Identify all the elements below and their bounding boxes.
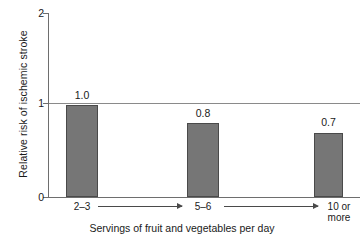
arrow-5-6-to-10-or-more — [224, 202, 318, 210]
bar-5-6 — [187, 123, 219, 197]
x-axis-title: Servings of fruit and vegetables per day — [0, 222, 364, 234]
arrow-head-icon — [177, 203, 183, 209]
bar-label-10-or-more: 0.7 — [321, 116, 336, 128]
plot-area: 0 1 2 1.0 0.8 0.7 2–3 5–6 10 or more — [48, 13, 360, 197]
x-category-label-5-6-line1: 5–6 — [195, 201, 212, 212]
y-axis-line — [48, 13, 49, 197]
chart-figure: Relative risk of ischemic stroke 0 1 2 1… — [0, 0, 364, 242]
x-category-label-2-3-line1: 2–3 — [74, 201, 91, 212]
x-category-label-5-6: 5–6 — [195, 201, 212, 212]
x-category-label-2-3: 2–3 — [74, 201, 91, 212]
y-tick-label-0: 0 — [38, 191, 44, 203]
arrow-shaft-icon — [98, 206, 182, 207]
y-tick-label-1: 1 — [38, 97, 44, 109]
arrow-2-3-to-5-6 — [98, 202, 182, 210]
bar-label-5-6: 0.8 — [196, 107, 211, 119]
x-category-label-10-or-more: 10 or more — [328, 201, 351, 223]
x-category-label-10-or-more-line1: 10 or — [328, 201, 351, 212]
bar-2-3 — [66, 105, 98, 197]
y-tick-label-2: 2 — [38, 7, 44, 19]
x-axis-line — [48, 197, 360, 198]
bar-label-2-3: 1.0 — [75, 89, 90, 101]
arrow-shaft-icon — [224, 206, 318, 207]
reference-line-at-1 — [48, 103, 360, 104]
y-axis-title: Relative risk of ischemic stroke — [17, 4, 29, 204]
arrow-head-icon — [313, 203, 319, 209]
bar-10-or-more — [314, 133, 343, 197]
